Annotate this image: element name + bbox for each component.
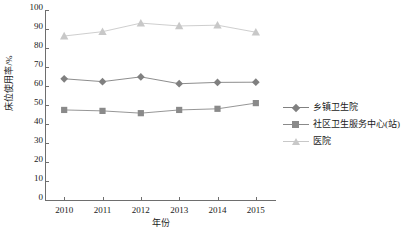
data-point-marker [99,78,107,86]
legend-item-1[interactable]: 乡镇卫生院 [283,99,411,116]
legend-label: 医院 [313,136,331,147]
data-point-marker [137,19,145,27]
legend-marker-diamond [292,103,300,111]
data-point-marker [214,106,220,112]
series-line [64,77,256,84]
series-line [64,23,256,36]
data-point-marker [176,107,182,113]
data-point-marker [175,80,183,88]
data-point-marker [252,78,260,86]
chart-legend: 乡镇卫生院社区卫生服务中心(站)医院 [283,99,411,150]
data-point-marker [137,73,145,81]
series-2 [61,100,259,116]
data-point-marker [60,75,68,83]
legend-item-3[interactable]: 医院 [283,133,411,150]
chart-container: 0102030405060708090100 20102011201220132… [0,0,412,242]
legend-item-2[interactable]: 社区卫生服务中心(站) [283,116,411,133]
legend-label: 乡镇卫生院 [313,102,358,113]
legend-swatch [283,119,309,131]
data-point-marker [138,110,144,116]
series-1 [60,73,259,88]
legend-swatch [283,136,309,148]
data-point-marker [61,107,67,113]
legend-swatch [283,102,309,114]
data-point-marker [99,108,105,114]
data-point-marker [213,21,221,29]
legend-marker-square [292,121,299,128]
data-point-marker [253,100,259,106]
data-point-marker [214,79,222,87]
series-line [64,103,256,113]
legend-label: 社区卫生服务中心(站) [313,119,400,130]
series-3 [60,19,260,39]
legend-marker-triangle [292,138,300,145]
